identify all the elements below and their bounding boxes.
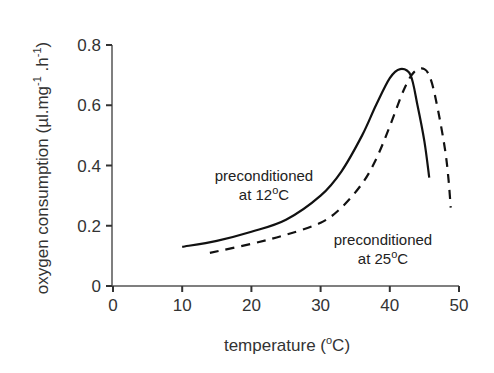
x-tick-label: 50 [450, 296, 469, 315]
y-axis-title: oxygen consumption (µl.mg-1 .h-1) [31, 42, 52, 294]
series-12c-line [182, 69, 429, 247]
x-tick-label: 20 [242, 296, 261, 315]
line-chart: 0102030405000.20.40.60.8 preconditioneda… [0, 0, 494, 373]
y-tick-label: 0.2 [77, 217, 101, 236]
annotation-line1: preconditioned [334, 231, 432, 248]
annotation-line2: at 25oC [358, 248, 409, 267]
series-25c-line [210, 68, 451, 252]
annotation-line2: at 12oC [239, 184, 290, 203]
x-tick-label: 10 [173, 296, 192, 315]
y-tick-label: 0.6 [77, 96, 101, 115]
annotations: preconditionedat 12oCpreconditionedat 25… [215, 167, 432, 267]
x-tick-label: 40 [380, 296, 399, 315]
y-tick-label: 0.4 [77, 157, 101, 176]
x-tick-label: 30 [311, 296, 330, 315]
x-tick-label: 0 [108, 296, 117, 315]
y-tick-label: 0.8 [77, 36, 101, 55]
series-lines [182, 68, 450, 252]
annotation-line1: preconditioned [215, 167, 313, 184]
y-tick-label: 0 [92, 277, 101, 296]
x-axis-title: temperature (oC) [224, 334, 350, 355]
